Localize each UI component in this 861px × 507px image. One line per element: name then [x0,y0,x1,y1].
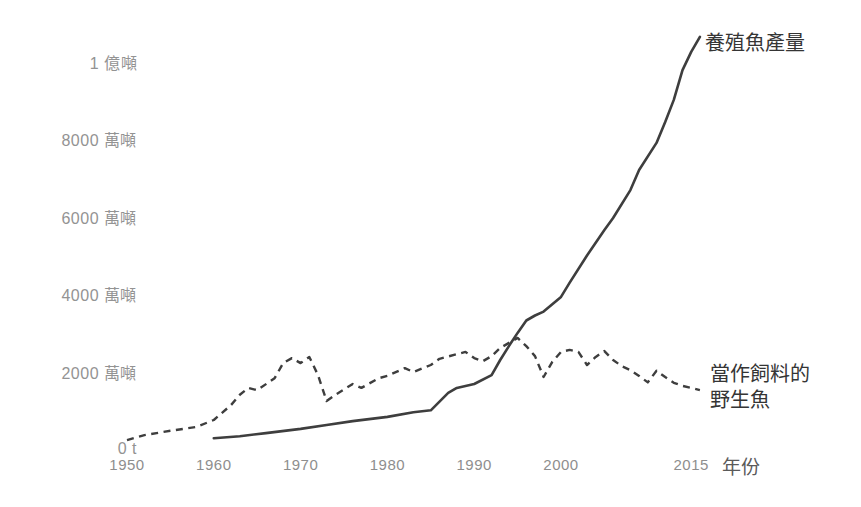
x-axis-title: 年份 [722,452,760,479]
x-tick-1990: 1990 [457,456,492,473]
x-tick-1960: 1960 [196,456,231,473]
wild-feed-fish-line [127,338,700,440]
y-tick-40m-tonnes: 4000 萬噸 [61,282,137,306]
y-tick-20m-tonnes: 2000 萬噸 [61,360,137,384]
farmed-fish-line [214,37,700,438]
wild-feed-fish-series-label: 當作飼料的野生魚 [710,361,822,413]
x-tick-1980: 1980 [370,456,405,473]
y-tick-100m-tonnes: 1 億噸 [90,50,137,74]
y-tick-80m-tonnes: 8000 萬噸 [61,127,137,151]
x-tick-2000: 2000 [543,456,578,473]
y-tick-60m-tonnes: 6000 萬噸 [61,205,137,229]
x-tick-1970: 1970 [283,456,318,473]
x-tick-2015: 2015 [674,456,709,473]
x-tick-1950: 1950 [109,456,144,473]
farmed-fish-series-label: 養殖魚產量 [705,27,805,56]
line-chart [0,0,861,507]
chart-canvas: 1 億噸 8000 萬噸 6000 萬噸 4000 萬噸 2000 萬噸 0 t… [0,0,861,507]
